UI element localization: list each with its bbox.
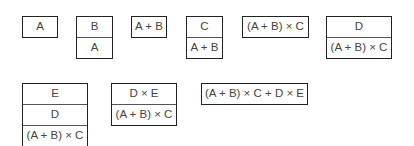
stack-cell: A (77, 37, 112, 58)
stack-cell: (A + B) × C (327, 37, 391, 58)
stack-2: B A (76, 16, 113, 59)
stack-cell: (A + B) × C (23, 125, 87, 146)
stack-7: E D (A + B) × C (22, 83, 88, 146)
stack-cell: A (23, 17, 57, 37)
stack-9: (A + B) × C + D × E (201, 83, 308, 105)
stack-cell: (A + B) × C (243, 17, 308, 37)
stack-3: A + B (131, 16, 167, 38)
stack-1: A (22, 16, 58, 38)
stack-cell: D × E (112, 84, 176, 104)
stack-cell: B (77, 17, 112, 37)
stack-cell: (A + B) × C + D × E (202, 84, 307, 104)
stack-cell: C (187, 17, 222, 37)
stack-cell: D (327, 17, 391, 37)
stack-6: D (A + B) × C (326, 16, 392, 59)
stack-cell: A + B (132, 17, 166, 37)
stack-4: C A + B (186, 16, 223, 59)
stack-cell: E (23, 84, 87, 104)
stack-cell: D (23, 104, 87, 125)
stack-8: D × E (A + B) × C (111, 83, 177, 126)
stack-cell: A + B (187, 37, 222, 58)
stack-5: (A + B) × C (242, 16, 309, 38)
stack-cell: (A + B) × C (112, 104, 176, 125)
